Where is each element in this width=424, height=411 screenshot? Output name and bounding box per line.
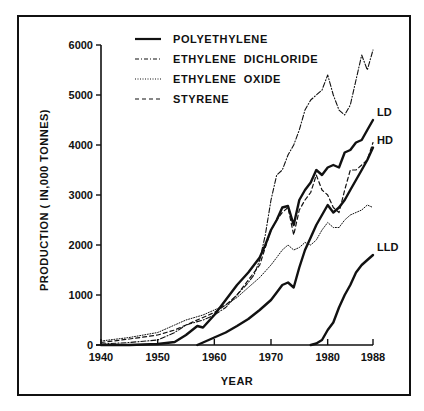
legend: POLYETHYLENE ETHYLENE DICHLORIDE ETHYLEN… (135, 33, 318, 105)
data-series (101, 50, 373, 345)
series-annotations: LDHDLLD (377, 106, 398, 253)
y-tick-label: 4000 (69, 139, 93, 151)
annotation-lld: LLD (377, 241, 398, 253)
x-tick-label: 1988 (361, 351, 385, 363)
annotation-ld: LD (377, 106, 392, 118)
y-tick-label: 3000 (69, 189, 93, 201)
annotation-hd: HD (377, 134, 393, 146)
legend-item-polyethylene: POLYETHYLENE (135, 33, 268, 45)
legend-item-styrene: STYRENE (135, 93, 229, 105)
y-axis-title: PRODUCTION ( IN,000 TONNES) (38, 109, 50, 291)
series-line-polyethylene-hd (197, 148, 373, 346)
x-tick-label: 1980 (315, 351, 339, 363)
y-tick-label: 2000 (69, 239, 93, 251)
legend-label: STYRENE (173, 93, 229, 105)
x-tick-label: 1970 (259, 351, 283, 363)
production-line-chart: POLYETHYLENE ETHYLENE DICHLORIDE ETHYLEN… (0, 0, 424, 411)
axes (96, 45, 373, 345)
legend-label: POLYETHYLENE (173, 33, 268, 45)
x-axis-title: YEAR (221, 375, 254, 387)
series-line-polyethylene-lld (311, 255, 373, 345)
y-tick-label: 0 (87, 339, 93, 351)
legend-label: ETHYLENE DICHLORIDE (173, 53, 318, 65)
y-tick-label: 5000 (69, 89, 93, 101)
series-line-polyethylene-ld (101, 120, 373, 345)
legend-item-ethylene-oxide: ETHYLENE OXIDE (135, 73, 281, 85)
y-tick-label: 6000 (69, 39, 93, 51)
x-tick-label: 1960 (202, 351, 226, 363)
legend-item-ethylene-dichloride: ETHYLENE DICHLORIDE (135, 53, 318, 65)
y-tick-label: 1000 (69, 289, 93, 301)
series-line-ethylene-dichloride (101, 50, 373, 344)
series-line-styrene (101, 143, 373, 343)
x-tick-label: 1940 (89, 351, 113, 363)
y-axis-ticks: 0100020003000400050006000 (69, 39, 101, 351)
legend-label: ETHYLENE OXIDE (173, 73, 281, 85)
x-tick-label: 1950 (145, 351, 169, 363)
series-line-ethylene-oxide (101, 205, 373, 341)
